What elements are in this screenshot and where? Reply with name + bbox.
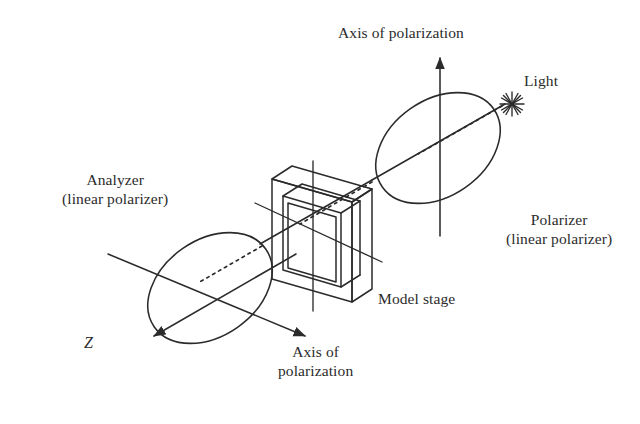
polarizer-ellipse	[355, 70, 521, 227]
figure-canvas: Axis of polarization Light Polarizer (li…	[0, 0, 640, 424]
label-axis-bottom-line2: polarization	[278, 362, 353, 381]
label-analyzer-line2: (linear polarizer)	[62, 190, 168, 209]
label-model-stage: Model stage	[378, 290, 455, 309]
analyzer-ellipse	[127, 210, 293, 367]
label-axis-of-polarization-bottom: Axis of polarization	[278, 343, 353, 381]
beam-solid-stage-left	[260, 180, 372, 244]
label-polarizer-line1: Polarizer	[506, 211, 612, 230]
label-analyzer-line1: Analyzer	[62, 171, 168, 190]
label-axis-of-polarization-top: Axis of polarization	[338, 24, 464, 43]
label-light: Light	[524, 72, 558, 91]
label-polarizer: Polarizer (linear polarizer)	[506, 211, 612, 249]
label-polarizer-line2: (linear polarizer)	[506, 230, 612, 249]
label-z-axis: Z	[84, 333, 93, 353]
label-analyzer: Analyzer (linear polarizer)	[62, 171, 168, 209]
label-axis-bottom-line1: Axis of	[278, 343, 353, 362]
